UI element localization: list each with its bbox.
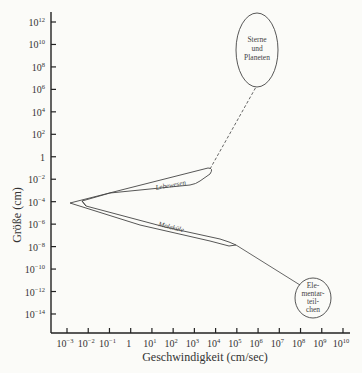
region-outer-wedge <box>70 168 236 246</box>
tick-label: 101 <box>143 337 156 349</box>
tick-label: 10−4 <box>28 196 46 208</box>
tick-label: 1 <box>40 152 45 163</box>
tick-label: 10−3 <box>57 337 74 349</box>
y-axis-title: Größe (cm) <box>10 187 24 243</box>
tick-label: 102 <box>32 128 45 140</box>
region-divider <box>82 201 86 206</box>
tick-label: 1012 <box>29 16 46 28</box>
x-axis-ticks: 10−310−210−11101102103104105106107108109… <box>57 328 350 349</box>
tick-label: 105 <box>228 337 241 349</box>
tick-label: 10−8 <box>28 241 45 253</box>
tick-label: 10−1 <box>99 337 116 349</box>
tick-label: 102 <box>165 337 178 349</box>
tick-label: 1 <box>126 338 131 349</box>
connector-sterne <box>210 87 256 169</box>
tick-label: 104 <box>207 337 221 349</box>
x-axis-title: Geschwindigkeit (cm/sec) <box>142 350 268 364</box>
bubble-label-sterne-1: Sterne <box>247 35 267 44</box>
tick-label: 1010 <box>29 38 46 50</box>
tick-label: 10−14 <box>25 308 46 320</box>
tick-label: 107 <box>271 337 285 349</box>
tick-label: 106 <box>32 83 46 95</box>
tick-label: 109 <box>313 337 326 349</box>
tick-label: 104 <box>32 106 46 118</box>
diagram-canvas: 10121010108106104102110−210−410−610−810−… <box>0 0 362 373</box>
tick-label: 10−12 <box>25 286 45 298</box>
tick-label: 10−10 <box>25 263 45 275</box>
tick-label: 1010 <box>333 337 350 349</box>
connector-elementarteilchen <box>236 245 300 285</box>
tick-label: 108 <box>32 61 45 73</box>
bubble-label-elementar-4: chen <box>306 305 320 314</box>
tick-label: 103 <box>186 337 199 349</box>
tick-label: 10−2 <box>28 173 45 185</box>
bubble-label-sterne-3: Planeten <box>244 53 270 62</box>
bubble-label-sterne-2: und <box>251 44 263 53</box>
tick-label: 106 <box>249 337 263 349</box>
tick-label: 108 <box>292 337 305 349</box>
tick-label: 10−6 <box>28 218 46 230</box>
tick-label: 10−2 <box>78 337 95 349</box>
